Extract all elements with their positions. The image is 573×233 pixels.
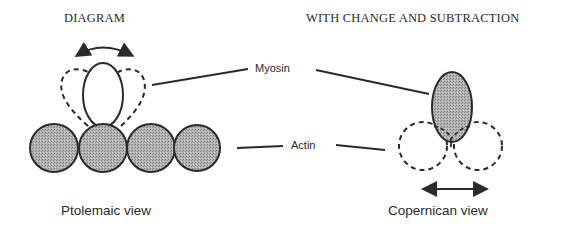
- ptolemaic-diagram: [30, 48, 220, 173]
- myosin-leader-right: [316, 70, 429, 94]
- actin-circle-4: [174, 125, 220, 171]
- label-myosin: Myosin: [255, 62, 290, 74]
- actin-leader-right: [336, 145, 385, 150]
- heading-diagram: DIAGRAM: [64, 11, 125, 26]
- caption-copernican-view: Copernican view: [388, 203, 488, 218]
- diagram-canvas: DIAGRAM WITH CHANGE AND SUBTRACTION Myos…: [0, 0, 573, 233]
- myosin-head-shaded: [432, 72, 472, 142]
- actin-circle-3: [127, 124, 175, 172]
- caption-ptolemaic-view: Ptolemaic view: [61, 203, 151, 218]
- label-actin: Actin: [291, 139, 315, 151]
- myosin-leader-left: [152, 69, 248, 85]
- heading-with-change-and-subtraction: WITH CHANGE AND SUBTRACTION: [306, 11, 519, 26]
- rotation-arrow-icon: [78, 48, 131, 56]
- actin-leader-left: [237, 146, 283, 148]
- actin-circle-2: [79, 124, 127, 172]
- diagram-graphics: [0, 0, 573, 233]
- myosin-head-open: [83, 63, 123, 127]
- actin-circle-1: [30, 124, 78, 172]
- copernican-diagram: [399, 72, 502, 189]
